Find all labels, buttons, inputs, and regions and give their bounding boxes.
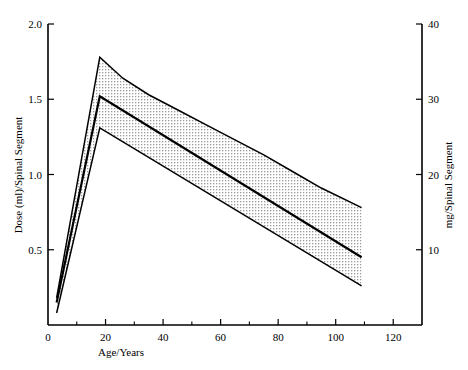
y-tick-label-left: 2.0 (28, 18, 42, 30)
y-axis-left-title: Dose (ml)/Spinal Segment (12, 117, 25, 234)
y-tick-label-right: 20 (428, 169, 440, 181)
y-tick-label-right: 10 (428, 244, 440, 256)
x-axis-title: Age/Years (98, 346, 144, 358)
x-tick-label: 20 (100, 331, 112, 343)
y-tick-label-left: 0.5 (28, 244, 42, 256)
x-tick-label: 80 (273, 331, 285, 343)
chart-figure: 0.51.01.52.0 10203040 020406080100120 Do… (0, 0, 468, 370)
y-tick-label-right: 30 (428, 93, 440, 105)
dose-vs-age-chart: 0.51.01.52.0 10203040 020406080100120 Do… (0, 0, 468, 370)
x-tick-label: 60 (215, 331, 227, 343)
y-axis-right-title: mg/Spinal Segment (442, 142, 454, 228)
x-tick-label: 0 (45, 331, 51, 343)
y-tick-label-right: 40 (428, 18, 440, 30)
x-tick-label: 100 (327, 331, 344, 343)
x-tick-label: 120 (385, 331, 402, 343)
x-tick-label: 40 (158, 331, 170, 343)
y-tick-label-left: 1.0 (28, 169, 42, 181)
y-tick-label-left: 1.5 (28, 93, 42, 105)
